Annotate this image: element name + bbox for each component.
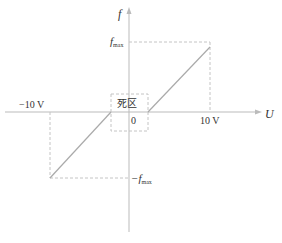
y-axis-label: f <box>118 7 123 21</box>
neg-fmax-sub: max <box>141 179 151 185</box>
curve-negative <box>50 112 111 178</box>
curve-positive <box>148 47 210 112</box>
x-axis-arrow-icon <box>255 110 262 115</box>
y-axis-arrow-icon <box>127 7 132 14</box>
neg-fmax-label: −fmax <box>131 172 152 185</box>
neg-10v-label: −10 V <box>19 99 45 110</box>
fmax-sub: max <box>113 42 123 48</box>
pos-10v-label: 10 V <box>200 115 220 126</box>
dead-zone-diagram: f U 0 fmax −fmax 10 V −10 V 死区 <box>0 0 282 243</box>
x-axis-label: U <box>265 107 275 121</box>
fmax-label: fmax <box>110 35 123 48</box>
dead-zone-label: 死区 <box>117 98 137 109</box>
origin-label: 0 <box>131 115 136 126</box>
